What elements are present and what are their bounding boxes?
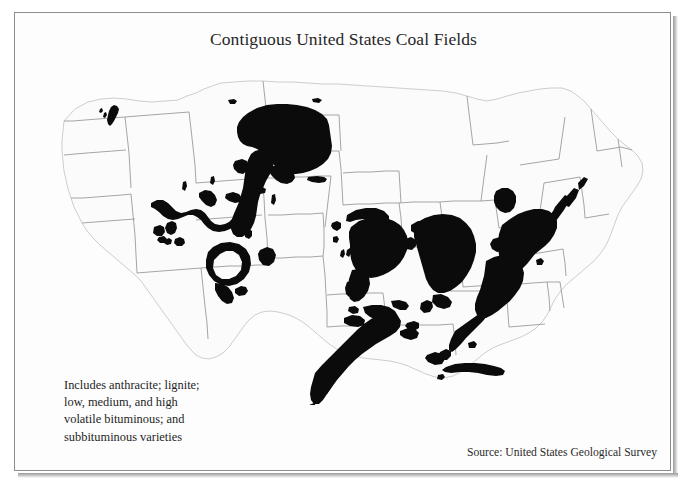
united-states-map bbox=[15, 55, 672, 405]
legend-line-4: subbituminous varieties bbox=[64, 429, 304, 446]
page-title: Contiguous United States Coal Fields bbox=[15, 29, 672, 50]
source-attribution: Source: United States Geological Survey bbox=[467, 446, 657, 459]
page-canvas: Contiguous United States Coal Fields bbox=[0, 0, 699, 486]
map-container bbox=[15, 55, 672, 405]
legend-line-3: volatile bituminous; and bbox=[64, 411, 304, 428]
page-shadow-bottom bbox=[18, 473, 678, 478]
legend-line-1: Includes anthracite; lignite; bbox=[64, 377, 304, 394]
legend-note: Includes anthracite; lignite; low, mediu… bbox=[64, 377, 304, 446]
figure-frame: Contiguous United States Coal Fields bbox=[14, 12, 671, 471]
legend-line-2: low, medium, and high bbox=[64, 394, 304, 411]
page-shadow-right bbox=[673, 16, 678, 478]
